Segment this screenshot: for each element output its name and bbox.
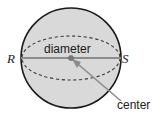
label-point-s: S [122,52,129,65]
sphere-diagram-figure: R S diameter center [0,0,160,122]
label-center: center [117,99,150,111]
label-diameter: diameter [44,43,91,55]
label-point-r: R [7,52,15,65]
center-point-dot [68,55,73,60]
